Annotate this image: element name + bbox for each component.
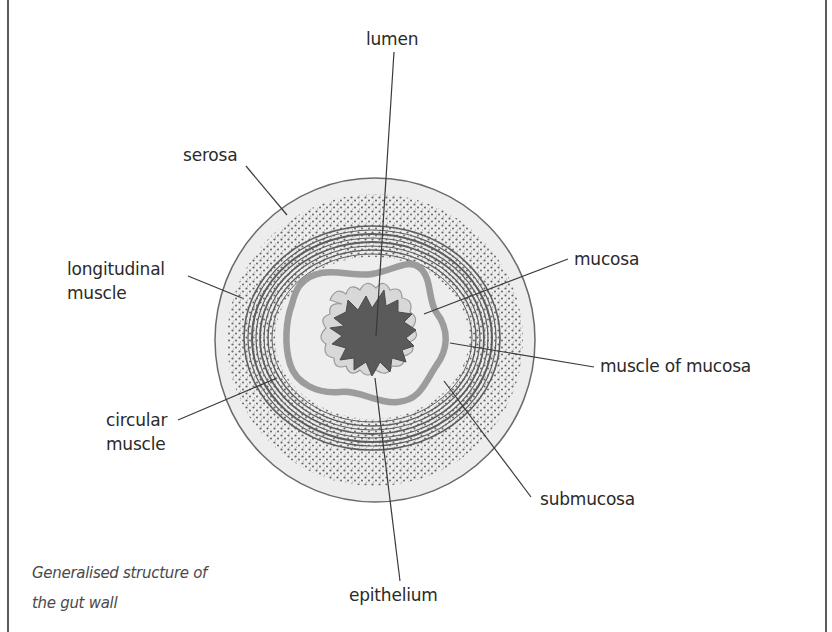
label-circular-muscle: circular muscle [106,408,167,456]
caption-line-2: the gut wall [32,588,207,618]
caption-line-1: Generalised structure of [32,558,207,588]
label-lumen: lumen [366,27,418,51]
label-muscle-of-mucosa: muscle of mucosa [600,354,751,378]
label-circular-muscle-line1: circular [106,408,167,432]
leader-serosa [246,166,287,215]
label-serosa: serosa [183,143,237,167]
label-longitudinal-muscle-line1: longitudinal [67,257,165,281]
gut-wall-diagram [0,0,832,632]
label-submucosa: submucosa [540,487,635,511]
label-mucosa: mucosa [574,247,639,271]
label-circular-muscle-line2: muscle [106,432,167,456]
label-longitudinal-muscle-line2: muscle [67,281,165,305]
label-epithelium: epithelium [349,583,438,607]
figure-caption: Generalised structure of the gut wall [32,558,207,618]
label-longitudinal-muscle: longitudinal muscle [67,257,165,305]
